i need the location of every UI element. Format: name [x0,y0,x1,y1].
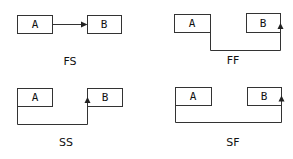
relation-label-ff: FF [227,54,240,67]
relation-label-ss: SS [59,136,73,149]
task-a-label: A [32,91,39,104]
panel-ss: A B SS [18,89,123,150]
task-a-label: A [32,18,39,31]
panel-fs: A B FS [18,16,122,69]
task-b-label: B [260,17,267,30]
task-b-label: B [261,90,268,103]
relation-label-fs: FS [63,55,76,68]
relation-label-sf: SF [226,136,239,149]
task-b-label: B [102,91,109,104]
task-a-label: A [190,90,197,103]
arrow-head-icon [81,22,88,28]
panel-ff: A B FF [175,14,284,68]
task-b-label: B [101,18,108,31]
task-a-label: A [189,17,196,30]
panel-sf: A B SF [176,88,285,150]
dependency-types-diagram: A B FS A B FF A B SS A B SF [0,0,293,159]
